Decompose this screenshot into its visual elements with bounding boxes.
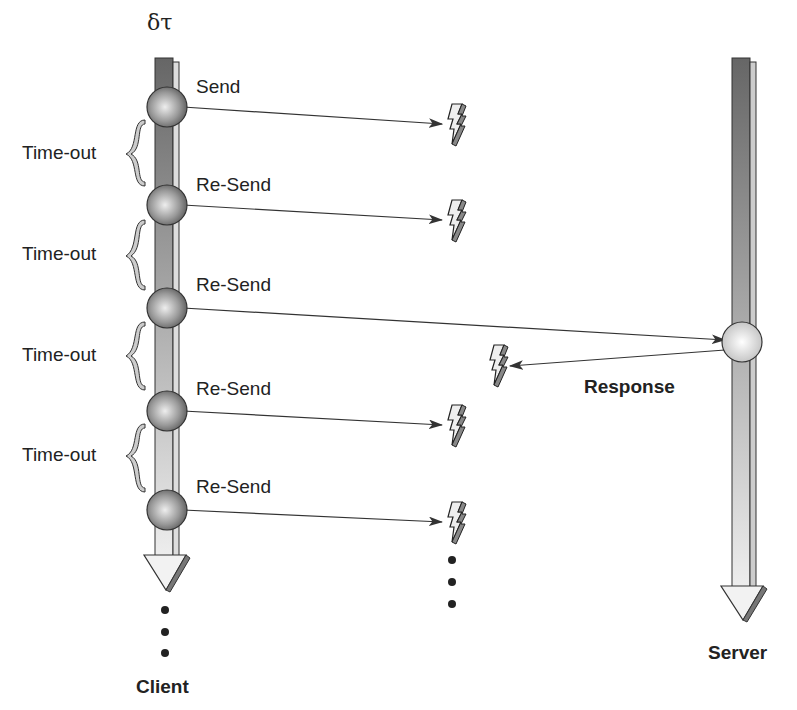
timeout-label: Time-out xyxy=(22,444,96,466)
message-label: Re-Send xyxy=(196,174,271,196)
retransmission-diagram: δτ Send Re-Send Re-Send Re-Send Re-Send … xyxy=(0,0,797,710)
lost-packet-icon xyxy=(448,200,466,242)
timeout-label: Time-out xyxy=(22,344,96,366)
delta-tau-label: δτ xyxy=(147,10,172,35)
lost-packet-icon xyxy=(448,104,466,146)
timeout-label: Time-out xyxy=(22,243,96,265)
diagram-graphics xyxy=(0,0,797,710)
message-label: Re-Send xyxy=(196,274,271,296)
message-label: Re-Send xyxy=(196,378,271,400)
timeout-label: Time-out xyxy=(22,142,96,164)
response-label: Response xyxy=(584,376,675,398)
lost-packet-icon xyxy=(448,405,466,447)
client-label: Client xyxy=(136,676,189,698)
message-label: Send xyxy=(196,76,240,98)
lost-packet-icon xyxy=(448,502,466,544)
server-label: Server xyxy=(708,642,767,664)
message-label: Re-Send xyxy=(196,476,271,498)
lost-packet-icon xyxy=(490,345,508,387)
